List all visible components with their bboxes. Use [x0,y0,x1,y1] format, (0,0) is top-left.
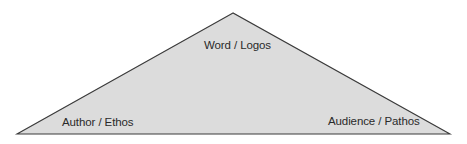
vertex-label-word-logos: Word / Logos [204,39,271,51]
vertex-label-author-ethos: Author / Ethos [62,116,133,128]
vertex-label-audience-pathos: Audience / Pathos [328,115,420,127]
